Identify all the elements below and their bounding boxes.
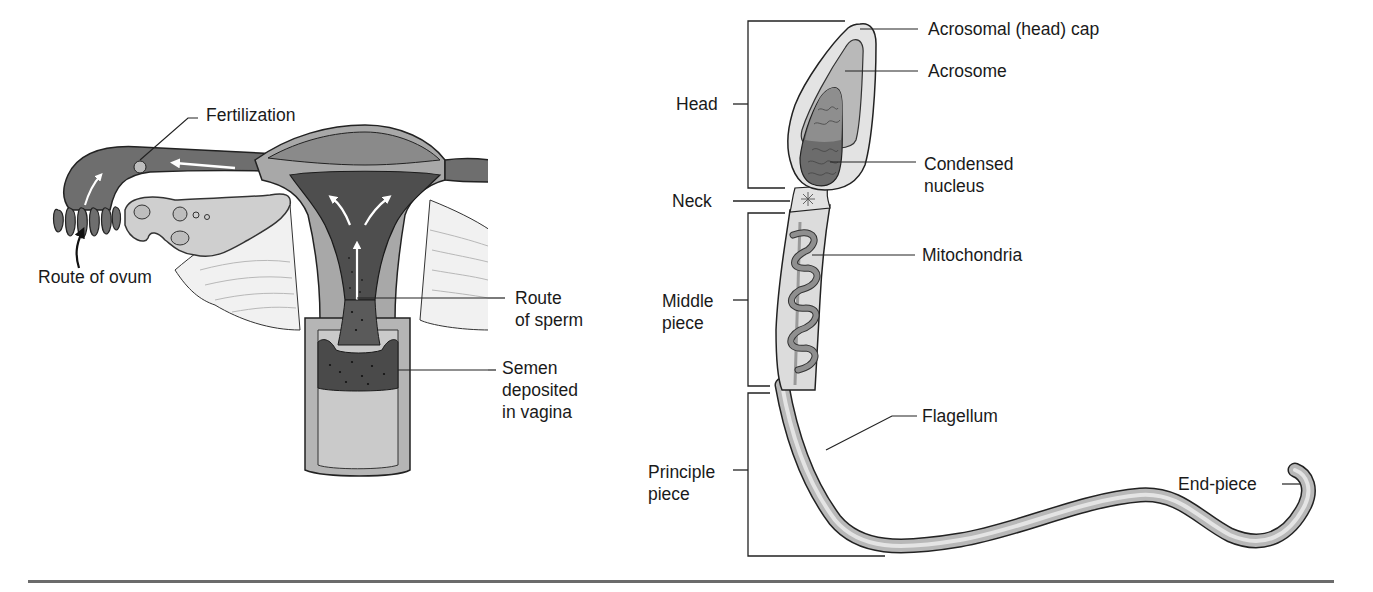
label-semen-deposited: Semen deposited in vagina — [502, 357, 578, 423]
label-end-piece: End-piece — [1178, 473, 1257, 495]
sperm-head — [788, 24, 876, 190]
label-middle-piece: Middle piece — [662, 290, 714, 334]
label-route-of-ovum: Route of ovum — [38, 266, 152, 288]
label-flagellum: Flagellum — [922, 405, 998, 427]
middle-piece — [776, 205, 830, 390]
right-leader-lines — [812, 29, 1300, 484]
label-acrosome: Acrosome — [928, 60, 1007, 82]
ovum — [134, 161, 146, 173]
label-mitochondria: Mitochondria — [922, 244, 1022, 266]
label-condensed-nucleus: Condensed nucleus — [924, 153, 1014, 197]
label-fertilization: Fertilization — [206, 104, 295, 126]
flagellum — [782, 385, 1308, 546]
label-route-of-sperm: Route of sperm — [515, 287, 583, 331]
female-reproductive-tract-illustration — [54, 118, 501, 476]
label-principle-piece: Principle piece — [648, 461, 715, 505]
label-head: Head — [676, 93, 718, 115]
bottom-divider-rule — [28, 580, 1334, 583]
vagina — [305, 300, 410, 476]
label-neck: Neck — [672, 190, 712, 212]
centriole — [801, 192, 815, 206]
label-acrosomal-cap: Acrosomal (head) cap — [928, 18, 1099, 40]
